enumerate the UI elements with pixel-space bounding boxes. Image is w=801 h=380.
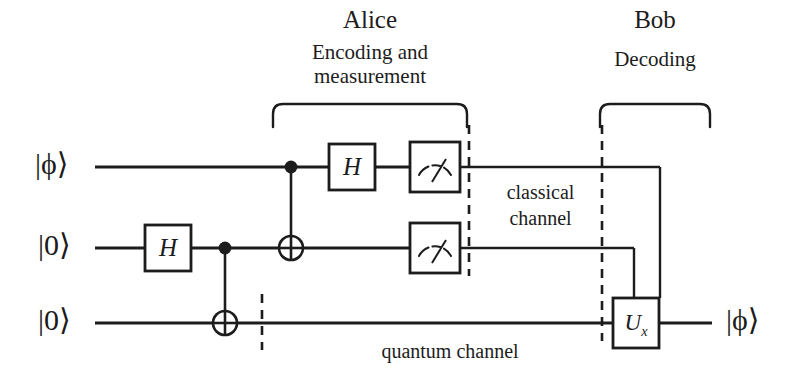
classical-channel-label-line1: classical	[483, 180, 598, 205]
figure-canvas: Alice Encoding and measurement Bob Decod…	[0, 0, 801, 380]
bob-brace-icon	[600, 104, 710, 127]
ux-gate-subscript: x	[641, 323, 647, 339]
classical-channel-label-line2: channel	[483, 206, 598, 231]
alice-subtitle-line2: measurement	[270, 65, 470, 89]
output-0-label: |ϕ⟩	[726, 303, 760, 337]
quantum-channel-label: quantum channel	[310, 339, 590, 364]
alice-party-name: Alice	[290, 6, 450, 34]
ux-gate-label: Ux	[613, 310, 659, 340]
cnot-wire0-wire1-control-dot-icon	[285, 161, 298, 174]
wire-0-input-label: |ϕ⟩	[35, 147, 69, 181]
h-gate-wire1-label: H	[145, 234, 191, 262]
measure-wire0-box[interactable]	[410, 142, 460, 192]
measure-wire1-box[interactable]	[410, 223, 460, 273]
wire-2-input-label: |0⟩	[38, 303, 71, 337]
alice-brace-icon	[273, 104, 467, 127]
wire-1-input-label: |0⟩	[38, 228, 71, 262]
cnot-wire1-wire2-control-dot-icon	[219, 242, 232, 255]
bob-party-name: Bob	[605, 6, 705, 34]
ux-gate-letter: U	[625, 310, 642, 335]
h-gate-wire0-label: H	[329, 153, 375, 181]
alice-subtitle-line1: Encoding and	[270, 41, 470, 65]
bob-subtitle-line1: Decoding	[590, 48, 720, 72]
